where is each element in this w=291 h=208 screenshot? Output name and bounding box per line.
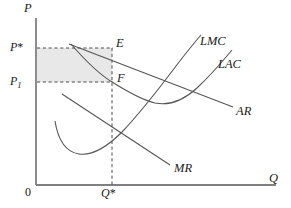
x-axis-label: Q xyxy=(269,172,278,185)
y-tick-p-one: P1 xyxy=(10,75,22,90)
economics-diagram: P Q 0 P* P1 Q* E F LMC LAC AR MR xyxy=(0,0,291,208)
y-axis-label: P xyxy=(24,2,32,15)
x-tick-q-star-superscript: * xyxy=(110,186,116,200)
x-tick-q-star-base: Q xyxy=(101,186,110,200)
y-tick-p-one-subscript: 1 xyxy=(17,80,21,90)
curve-label-lmc: LMC xyxy=(200,35,226,48)
y-tick-p-star: P* xyxy=(10,41,23,53)
profit-rectangle-shading xyxy=(37,48,112,82)
origin-label: 0 xyxy=(25,186,31,198)
point-label-e: E xyxy=(116,37,124,50)
curve-label-ar: AR xyxy=(236,105,251,118)
x-tick-q-star: Q* xyxy=(101,187,116,199)
point-label-f: F xyxy=(117,72,125,85)
curve-label-mr: MR xyxy=(174,162,192,175)
curve-label-lac: LAC xyxy=(218,58,241,71)
y-tick-p-star-superscript: * xyxy=(17,40,23,54)
